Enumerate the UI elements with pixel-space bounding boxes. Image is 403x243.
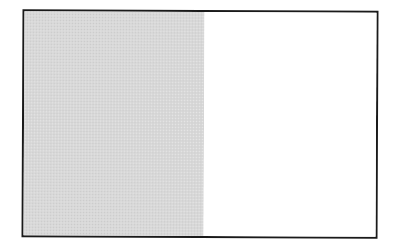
fraction-diagram bbox=[0, 0, 403, 243]
whole-rectangle bbox=[22, 9, 379, 239]
unshaded-part bbox=[203, 12, 376, 237]
shaded-part bbox=[24, 11, 204, 236]
